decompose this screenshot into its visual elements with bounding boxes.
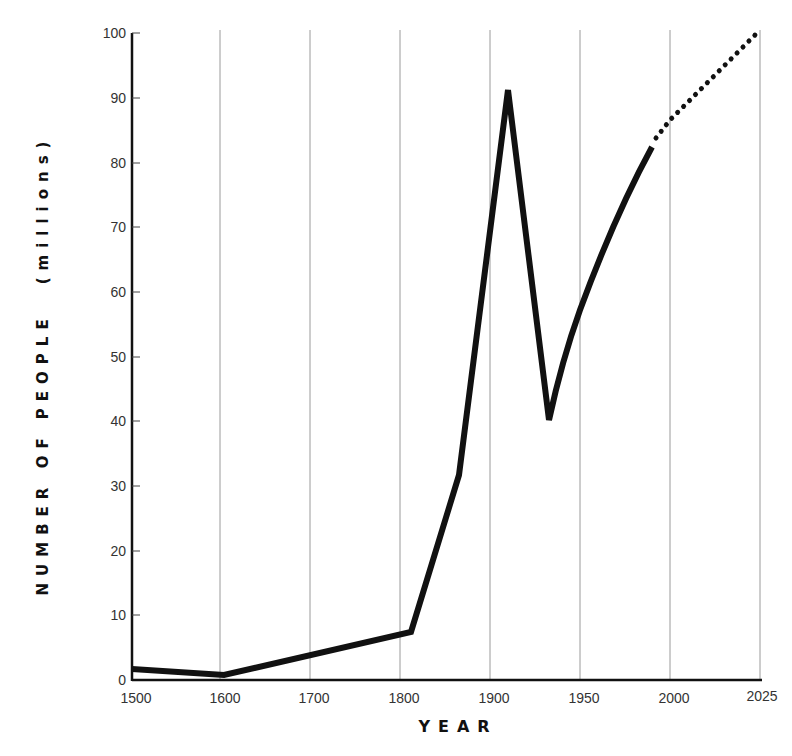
y-tick-label: 30 — [110, 478, 126, 494]
gridlines — [220, 30, 760, 680]
x-tick-label: 1600 — [209, 690, 240, 706]
projected-population-line — [656, 30, 760, 138]
actual-population-line — [132, 90, 652, 675]
y-axis-title: NUMBER OF PEOPLE(millions) — [34, 135, 52, 596]
y-axis-unit: (millions) — [34, 135, 52, 285]
y-tick-label: 40 — [110, 413, 126, 429]
population-chart: 0 10 20 30 40 50 60 70 80 90 100 1500 16… — [0, 0, 792, 756]
x-tick-label: 1900 — [478, 690, 509, 706]
y-tick-label: 90 — [110, 90, 126, 106]
y-tick-label: 100 — [103, 25, 127, 41]
x-tick-label: 2025 — [746, 688, 777, 704]
y-axis-label: NUMBER OF PEOPLE — [34, 312, 52, 595]
y-tick-label: 60 — [110, 284, 126, 300]
x-tick-label: 1800 — [388, 690, 419, 706]
x-tick-label: 1500 — [120, 690, 151, 706]
y-tick-label: 70 — [110, 219, 126, 235]
x-tick-labels: 1500 1600 1700 1800 1900 1950 2000 2025 — [120, 688, 777, 706]
svg-text:NUMBER OF PEOPLE(millions): NUMBER OF PEOPLE(millions) — [34, 135, 52, 596]
y-tick-label: 20 — [110, 543, 126, 559]
x-axis-title: YEAR — [417, 717, 497, 736]
y-tick-label: 50 — [110, 349, 126, 365]
y-tick-label: 10 — [110, 607, 126, 623]
x-tick-label: 1700 — [298, 690, 329, 706]
y-tick-labels: 0 10 20 30 40 50 60 70 80 90 100 — [103, 25, 127, 688]
y-tick-label: 80 — [110, 155, 126, 171]
x-tick-label: 1950 — [568, 690, 599, 706]
y-tick-label: 0 — [118, 672, 126, 688]
x-tick-label: 2000 — [658, 690, 689, 706]
axes — [132, 33, 762, 681]
